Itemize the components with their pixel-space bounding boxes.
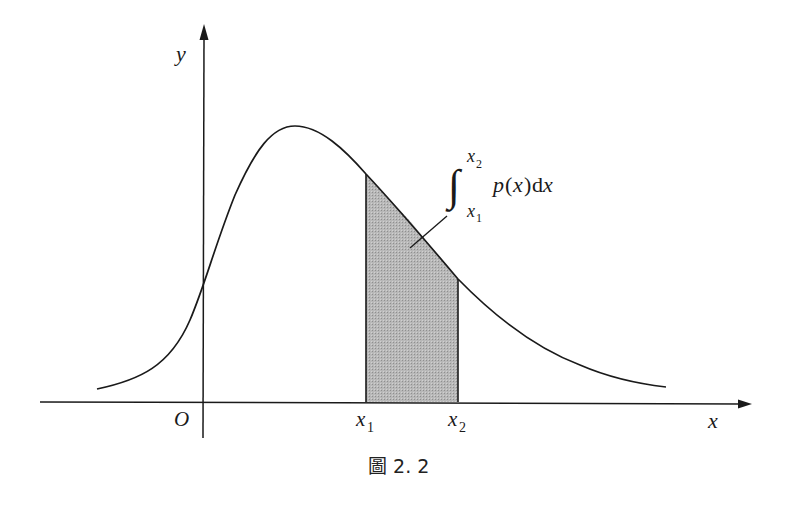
svg-text:x: x [542, 172, 553, 197]
svg-text:): ) [524, 172, 531, 197]
integral-annotation: ∫ x 2 x 1 p ( x ) d x [445, 146, 553, 225]
y-axis-label: y [174, 41, 186, 66]
x-axis-label: x [707, 408, 718, 433]
svg-text:(: ( [505, 172, 512, 197]
svg-text:d: d [532, 172, 543, 197]
svg-text:2: 2 [459, 420, 466, 435]
y-axis-arrow-icon [200, 24, 209, 40]
svg-text:x: x [466, 201, 475, 221]
svg-text:x: x [355, 407, 366, 431]
x-axis [40, 402, 742, 404]
svg-text:x: x [466, 146, 475, 166]
integral-sign-icon: ∫ [445, 161, 463, 212]
origin-label: O [174, 407, 189, 431]
svg-text:x: x [512, 172, 523, 197]
svg-text:p: p [491, 172, 504, 197]
x2-tick-label: x 2 [447, 407, 466, 435]
svg-text:1: 1 [476, 211, 482, 225]
y-axis [203, 36, 204, 438]
density-figure: y O x 1 x 2 x ∫ x 2 x 1 p ( x ) d x 圖 2.… [0, 0, 790, 506]
svg-text:1: 1 [367, 420, 374, 435]
svg-text:2: 2 [476, 157, 482, 171]
figure-caption: 圖 2. 2 [368, 455, 429, 477]
svg-text:x: x [447, 407, 458, 431]
x1-tick-label: x 1 [355, 407, 374, 435]
x-axis-arrow-icon [738, 400, 752, 409]
shaded-probability-area [366, 174, 458, 402]
